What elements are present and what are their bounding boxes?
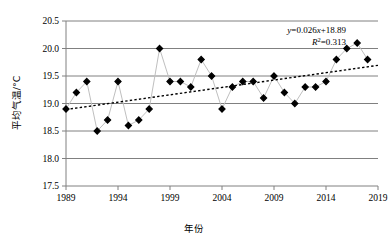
y-axis-tick-label: 18.5	[42, 126, 59, 136]
y-axis-tick-label: 17.5	[42, 181, 59, 191]
x-axis-tick-label: 1989	[57, 193, 76, 203]
chart-container: 17.518.018.519.019.520.020.5 19891994199…	[0, 0, 392, 242]
r-squared-label: R2=0.313	[311, 36, 347, 47]
y-axis-title: 平均气温/°C	[11, 75, 22, 130]
y-axis-tick-label: 18.0	[42, 154, 59, 164]
x-axis-tick-label: 2014	[317, 193, 336, 203]
y-axis-tick-label: 19.0	[42, 99, 59, 109]
trend-equation-label: y=0.026x+18.89	[286, 25, 346, 35]
y-axis-tick-label: 20.5	[42, 16, 59, 26]
x-axis-tick-label: 2004	[213, 193, 232, 203]
temperature-line-chart: 17.518.018.519.019.520.020.5 19891994199…	[0, 0, 392, 242]
x-axis-tick-label: 1994	[109, 193, 128, 203]
x-axis-tick-label: 1999	[161, 193, 180, 203]
y-axis-tick-label: 19.5	[42, 71, 59, 81]
y-axis-tick-label: 20.0	[42, 44, 59, 54]
x-axis-tick-label: 2009	[265, 193, 284, 203]
x-axis-tick-label: 2019	[369, 193, 388, 203]
x-axis-title: 年份	[184, 223, 204, 234]
